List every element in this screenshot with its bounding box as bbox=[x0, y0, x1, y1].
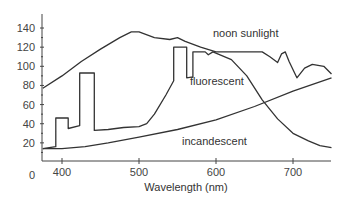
y-tick-label: 60 bbox=[23, 99, 35, 111]
label-fluorescent: fluorescent bbox=[190, 75, 244, 87]
x-tick-label: 400 bbox=[53, 166, 71, 178]
x-tick-label: 700 bbox=[284, 166, 302, 178]
y-tick-label: 140 bbox=[17, 22, 35, 34]
x-axis-title: Wavelength (nm) bbox=[144, 181, 227, 193]
y-tick-label: 20 bbox=[23, 137, 35, 149]
y-tick-label: 80 bbox=[23, 79, 35, 91]
x-tick-label: 600 bbox=[207, 166, 225, 178]
x-axis: 400500600700 bbox=[42, 158, 331, 178]
label-noon-sunlight: noon sunlight bbox=[213, 27, 278, 39]
y-tick-label: 40 bbox=[23, 118, 35, 130]
plot-area bbox=[43, 32, 332, 149]
x-tick-label: 500 bbox=[130, 166, 148, 178]
y-tick-label: 120 bbox=[17, 41, 35, 53]
fluorescent-curve bbox=[43, 47, 332, 148]
y-axis: 020406080100120140 bbox=[17, 14, 44, 181]
y-tick-label: 0 bbox=[29, 169, 35, 181]
y-tick-label: 100 bbox=[17, 60, 35, 72]
label-incandescent: incandescent bbox=[182, 135, 247, 147]
spectrum-chart: 020406080100120140 400500600700 noon sun… bbox=[0, 0, 351, 203]
